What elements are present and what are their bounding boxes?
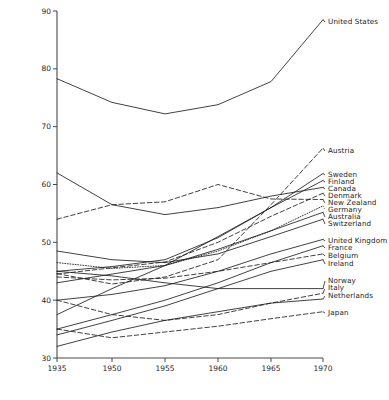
label-leader-line [323, 200, 325, 204]
label-leader-line [323, 206, 325, 210]
series-label-switzerland: Switzerland [328, 219, 371, 228]
label-leader-line [323, 212, 325, 217]
label-leader-line [323, 181, 325, 183]
label-leader-line [323, 296, 325, 299]
line-chart: 30405060708090 193519501955196019651970 … [0, 0, 389, 400]
label-leader-line [323, 219, 325, 224]
label-leader-line [323, 281, 325, 289]
y-tick-label: 70 [41, 122, 51, 131]
series-line [57, 271, 323, 288]
figure-container: 30405060708090 193519501955196019651970 … [0, 0, 389, 400]
series-line [57, 219, 323, 262]
series-line [57, 260, 323, 335]
series-line [57, 174, 323, 272]
series-line [57, 148, 323, 284]
figure-caption-clipped: Fig. 1 — Expansion in school enrolment r… [0, 392, 389, 400]
series-label-united-states: United States [328, 17, 378, 26]
series-label-netherlands: Netherlands [328, 291, 373, 300]
label-leader-line [323, 148, 325, 151]
x-tick-label: 1970 [313, 364, 332, 373]
x-axis-ticks: 193519501955196019651970 [47, 358, 332, 373]
series-line [57, 185, 323, 220]
x-tick-label: 1965 [261, 364, 280, 373]
x-tick-label: 1935 [47, 364, 66, 373]
label-leader-line [323, 246, 325, 248]
series-label-ireland: Ireland [328, 259, 354, 268]
y-tick-label: 40 [41, 296, 51, 305]
series-label-austria: Austria [328, 146, 354, 155]
series-line [57, 193, 323, 274]
y-axis-ticks: 30405060708090 [41, 7, 57, 363]
label-leader-line [323, 239, 325, 241]
x-tick-label: 1950 [102, 364, 121, 373]
chart-axes [57, 11, 323, 358]
y-tick-label: 80 [41, 64, 51, 73]
series-line [57, 212, 323, 282]
y-tick-label: 30 [41, 354, 51, 363]
series-lines [57, 20, 323, 347]
series-line [57, 20, 323, 114]
x-tick-label: 1960 [208, 364, 227, 373]
label-leader-line [323, 20, 325, 22]
series-label-japan: Japan [327, 308, 349, 317]
series-line [57, 181, 323, 315]
label-leader-line [323, 174, 325, 176]
x-tick-label: 1955 [155, 364, 174, 373]
y-tick-label: 60 [41, 180, 51, 189]
label-leader-line [323, 260, 325, 264]
y-tick-label: 90 [41, 7, 51, 16]
series-labels: United StatesAustriaSwedenFinlandCanadaD… [327, 17, 387, 317]
label-leader-lines [323, 20, 325, 313]
label-leader-line [323, 193, 325, 196]
series-line [57, 299, 323, 346]
y-tick-label: 50 [41, 238, 51, 247]
label-leader-line [323, 187, 325, 189]
label-leader-line [323, 254, 325, 256]
label-leader-line [323, 312, 325, 313]
